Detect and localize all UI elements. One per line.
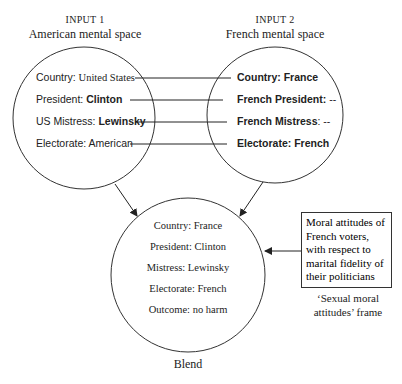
blend-item-outcome: Outcome: no harm [128, 304, 248, 315]
frame-text-line: with respect to [306, 243, 387, 257]
frame-text-line: French voters, [306, 230, 387, 244]
frame-text-line: their politicians [306, 270, 387, 284]
conceptual-blend-diagram: INPUT 1 American mental space Country: U… [0, 0, 402, 384]
input2-label: INPUT 2 [235, 14, 315, 25]
input1-label: INPUT 1 [45, 14, 125, 25]
input2-item-president: French President: -- [237, 93, 336, 105]
input1-title: American mental space [20, 27, 150, 42]
blend-item-mistress: Mistress: Lewinsky [128, 262, 248, 273]
frame-text-line: marital fidelity of [306, 257, 387, 271]
blend-item-country: Country: France [128, 220, 248, 231]
input2-item-electorate: Electorate: French [237, 137, 329, 149]
blend-label: Blend [158, 357, 218, 372]
input1-item-electorate: Electorate: American [36, 137, 133, 149]
input2-title: French mental space [215, 27, 335, 42]
input2-item-country: Country: France [237, 71, 318, 83]
diagram-graphics [0, 0, 402, 384]
frame-text-line: Moral attitudes of [306, 216, 387, 230]
arrow-input2-to-blend [240, 182, 263, 216]
input1-item-country: Country: United States [36, 71, 135, 83]
frame-caption: ‘Sexual moral attitudes’ frame [303, 292, 393, 319]
blend-item-electorate: Electorate: French [128, 283, 248, 294]
input1-item-president: President: Clinton [36, 93, 122, 105]
sexual-moral-attitudes-frame-box: Moral attitudes of French voters, with r… [301, 212, 392, 288]
input2-item-mistress: French Mistress: -- [237, 115, 330, 127]
blend-item-president: President: Clinton [128, 241, 248, 252]
arrow-input1-to-blend [115, 184, 137, 216]
input1-item-mistress: US Mistress: Lewinsky [36, 115, 146, 127]
